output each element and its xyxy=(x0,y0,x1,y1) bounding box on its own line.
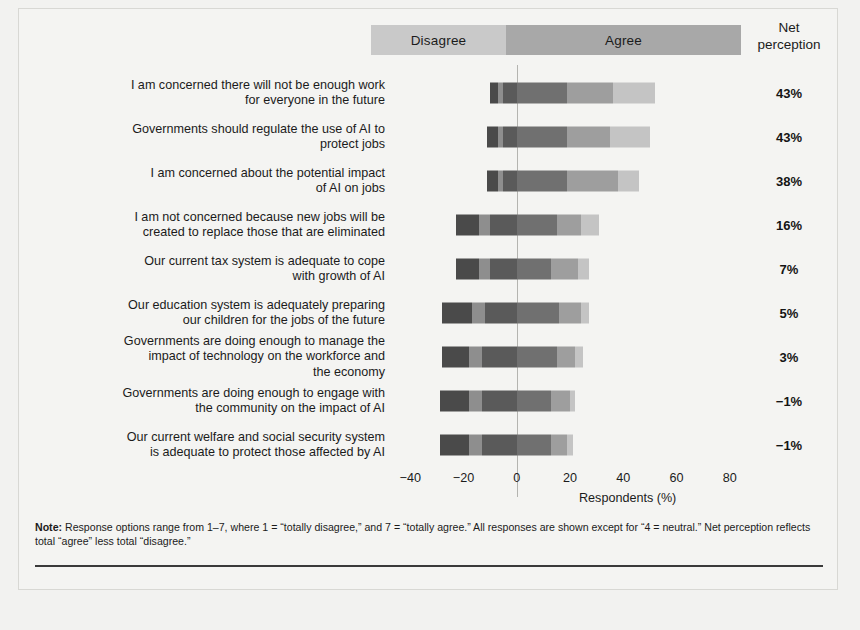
bar-segment xyxy=(456,215,480,236)
x-axis: −40−20020406080 xyxy=(397,467,743,489)
bar-disagree xyxy=(456,259,517,280)
axis-tick-label: 40 xyxy=(616,471,630,485)
bar-disagree xyxy=(442,347,517,368)
bar-segment xyxy=(472,303,485,324)
bar-segment xyxy=(567,435,572,456)
row-label-line: Governments should regulate the use of A… xyxy=(132,122,385,138)
bar-disagree xyxy=(456,215,517,236)
row-label-line: for everyone in the future xyxy=(245,93,385,109)
bar-segment xyxy=(610,127,650,148)
row-label-line: the economy xyxy=(313,365,385,381)
chart-row: I am concerned about the potential impac… xyxy=(19,159,837,203)
bar-segment xyxy=(440,391,469,412)
row-label-line: is adequate to protect those affected by… xyxy=(150,445,385,461)
chart-row: Governments should regulate the use of A… xyxy=(19,115,837,159)
bar-disagree xyxy=(490,83,517,104)
footnote-text: Response options range from 1–7, where 1… xyxy=(35,521,810,547)
row-label-line: Governments are doing enough to manage t… xyxy=(124,334,385,350)
row-label: Governments are doing enough to engage w… xyxy=(23,379,391,423)
bar-segment xyxy=(578,259,589,280)
bar-segment xyxy=(442,303,471,324)
chart-row: Our current tax system is adequate to co… xyxy=(19,247,837,291)
net-perception-value: 38% xyxy=(741,159,837,203)
bar-agree xyxy=(517,171,639,192)
bar-segment xyxy=(469,391,482,412)
bar-track xyxy=(397,159,743,203)
bar-segment xyxy=(482,435,517,456)
bar-segment xyxy=(567,83,612,104)
bar-segment xyxy=(490,259,517,280)
bar-disagree xyxy=(440,391,517,412)
bar-segment xyxy=(551,391,570,412)
row-label: Our education system is adequately prepa… xyxy=(23,291,391,335)
chart-row: Our current welfare and social security … xyxy=(19,423,837,467)
bar-segment xyxy=(469,347,482,368)
bar-segment xyxy=(575,347,583,368)
axis-tick-label: 0 xyxy=(513,471,520,485)
net-perception-value: 5% xyxy=(741,291,837,335)
row-label-line: Our current welfare and social security … xyxy=(127,430,385,446)
bar-segment xyxy=(442,347,469,368)
bar-segment xyxy=(469,435,482,456)
net-perception-value: −1% xyxy=(741,423,837,467)
x-axis-title: Respondents (%) xyxy=(579,491,779,505)
net-perception-value: 7% xyxy=(741,247,837,291)
row-label: Governments should regulate the use of A… xyxy=(23,115,391,159)
bar-segment xyxy=(567,171,618,192)
row-label-line: created to replace those that are elimin… xyxy=(143,225,385,241)
bar-segment xyxy=(581,303,589,324)
bar-segment xyxy=(482,347,517,368)
bar-segment xyxy=(613,83,656,104)
bar-disagree xyxy=(440,435,517,456)
row-label-line: of AI on jobs xyxy=(316,181,385,197)
bar-disagree xyxy=(487,171,516,192)
legend-label-agree: Agree xyxy=(605,33,642,48)
bar-segment xyxy=(557,347,576,368)
row-label-line: protect jobs xyxy=(320,137,385,153)
chart-frame: Disagree Agree Net perception I am conce… xyxy=(18,8,838,590)
row-label: Governments are doing enough to manage t… xyxy=(23,335,391,379)
bar-segment xyxy=(517,303,560,324)
bar-segment xyxy=(517,127,568,148)
row-label: I am concerned there will not be enough … xyxy=(23,71,391,115)
bar-segment xyxy=(517,83,568,104)
row-label: I am concerned about the potential impac… xyxy=(23,159,391,203)
row-label-line: Our education system is adequately prepa… xyxy=(128,298,385,314)
bar-agree xyxy=(517,347,584,368)
bar-track xyxy=(397,115,743,159)
bar-track xyxy=(397,335,743,379)
chart-row: Governments are doing enough to manage t… xyxy=(19,335,837,379)
bar-agree xyxy=(517,127,650,148)
row-label-line: impact of technology on the workforce an… xyxy=(148,349,385,365)
footnote-prefix: Note: xyxy=(35,521,62,533)
legend-bands: Disagree Agree Net perception xyxy=(19,9,837,55)
net-perception-value: 16% xyxy=(741,203,837,247)
bar-track xyxy=(397,291,743,335)
axis-tick-label: 20 xyxy=(563,471,577,485)
bar-rows: I am concerned there will not be enough … xyxy=(19,71,837,467)
row-label-line: our children for the jobs of the future xyxy=(183,313,385,329)
bar-disagree xyxy=(487,127,516,148)
bar-agree xyxy=(517,435,573,456)
chart-row: Governments are doing enough to engage w… xyxy=(19,379,837,423)
axis-tick-label: −40 xyxy=(400,471,421,485)
bar-track xyxy=(397,247,743,291)
bar-segment xyxy=(485,303,517,324)
bar-segment xyxy=(517,391,552,412)
bar-segment xyxy=(517,259,552,280)
bar-segment xyxy=(618,171,639,192)
legend-band-agree: Agree xyxy=(506,25,741,55)
axis-tick-label: 80 xyxy=(723,471,737,485)
chart-row: Our education system is adequately prepa… xyxy=(19,291,837,335)
bar-segment xyxy=(570,391,575,412)
legend-band-disagree: Disagree xyxy=(371,25,506,55)
bar-segment xyxy=(581,215,600,236)
row-label-line: the community on the impact of AI xyxy=(195,401,385,417)
net-perception-value: 43% xyxy=(741,115,837,159)
net-perception-header: Net perception xyxy=(741,19,837,53)
bar-segment xyxy=(440,435,469,456)
bar-agree xyxy=(517,259,589,280)
bar-segment xyxy=(559,303,580,324)
row-label-line: Our current tax system is adequate to co… xyxy=(144,254,385,270)
bar-segment xyxy=(517,171,568,192)
